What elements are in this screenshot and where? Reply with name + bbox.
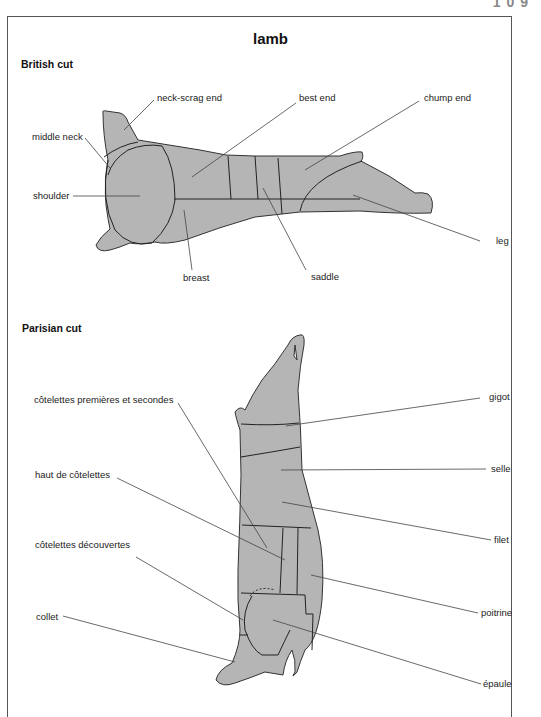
label-haut-de-cotelettes: haut de côtelettes (35, 469, 110, 480)
label-cotelettes-premieres: côtelettes premières et secondes (34, 394, 173, 405)
british-carcass (96, 111, 432, 251)
label-collet: collet (36, 611, 58, 622)
label-breast: breast (183, 272, 209, 283)
label-middle-neck: middle neck (32, 131, 83, 142)
parisian-carcass (216, 335, 323, 685)
label-shoulder: shoulder (33, 190, 69, 201)
label-cotelettes-decouvertes: côtelettes découvertes (35, 539, 130, 550)
label-chump-end: chump end (424, 92, 471, 103)
label-best-end: best end (299, 92, 335, 103)
label-leg: leg (496, 235, 509, 246)
label-filet: filet (494, 534, 509, 545)
label-neck-scrag-end: neck-scrag end (157, 92, 222, 103)
label-saddle: saddle (311, 271, 339, 282)
label-poitrine: poitrine (481, 607, 512, 618)
label-gigot: gigot (489, 391, 510, 402)
label-selle: selle (491, 463, 511, 474)
label-epaule: épaule (483, 678, 512, 689)
